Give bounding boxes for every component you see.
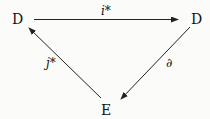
label-i-star: i* <box>101 5 111 17</box>
label-boundary: ∂ <box>166 57 172 69</box>
node-top-left: D <box>12 12 23 26</box>
node-bottom: E <box>101 103 111 117</box>
arrow-j-star <box>29 28 101 98</box>
node-top-right: D <box>191 12 202 26</box>
label-j-star: j* <box>46 57 56 69</box>
arrow-boundary <box>121 27 190 99</box>
exact-triangle-diagram: D D E i* ∂ j* <box>0 0 210 119</box>
